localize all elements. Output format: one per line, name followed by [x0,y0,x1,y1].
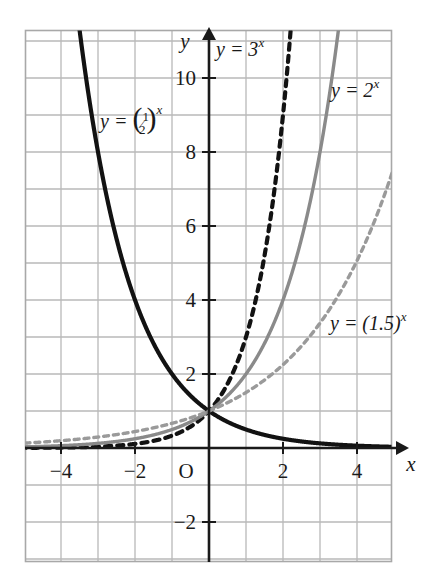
y-tick-label: 8 [186,140,197,164]
x-tick-label: −2 [124,459,146,483]
y-tick-label: 10 [175,66,196,90]
x-tick-label: 2 [278,459,289,483]
y-tick-label: 4 [186,288,197,312]
curve-annotations: y = (1⁄2)xy = 3xy = 2xy = (1.5)x [98,35,407,335]
exponential-functions-figure: −4−224108642−2 O y x y = (1⁄2)xy = 3xy =… [0,0,437,580]
y-tick-label: −2 [174,510,196,534]
x-tick-label: 4 [352,459,363,483]
curve-label-3: y = (1.5)x [328,309,407,335]
y-axis-arrowhead [202,27,216,40]
origin-label: O [178,459,193,483]
curve-0 [68,0,421,447]
curve-3 [0,69,421,445]
exponential-graph-svg: −4−224108642−2 O y x y = (1⁄2)xy = 3xy =… [0,0,437,580]
curve-label-2: y = 2x [329,76,379,102]
y-tick-label: 2 [186,362,197,386]
curve-label-0: y = (1⁄2)x [98,101,163,137]
x-axis-label: x [405,452,416,476]
curve-1 [0,0,298,448]
y-tick-label: 6 [186,214,197,238]
curve-label-1: y = 3x [214,35,264,61]
y-axis-label: y [178,29,190,53]
curve-lines [0,0,421,448]
x-tick-label: −4 [50,459,73,483]
